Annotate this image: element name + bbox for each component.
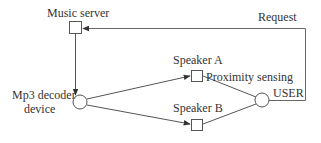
request-label: Request: [258, 11, 297, 24]
speaker-b-node: [192, 120, 203, 131]
music-server-node: [70, 22, 82, 34]
mp3-decoder-label-line2: device: [24, 103, 55, 116]
speaker-a-node: [192, 71, 203, 82]
user-node: [255, 93, 269, 107]
speaker-a-label: Speaker A: [173, 54, 223, 67]
speaker-b-label: Speaker B: [173, 102, 223, 115]
music-server-label: Music server: [47, 7, 109, 20]
diagram-canvas: Music server Request Speaker A Proximity…: [0, 0, 321, 143]
decoder-to-speaker-a-edge: [87, 76, 190, 99]
proximity-label: Proximity sensing: [206, 71, 293, 84]
mp3-decoder-label-line1: Mp3 decoder: [12, 89, 76, 102]
user-label: USER: [273, 87, 304, 100]
